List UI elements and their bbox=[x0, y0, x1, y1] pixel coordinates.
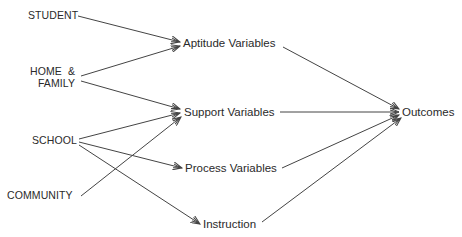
node-support-variables: Support Variables bbox=[184, 106, 275, 118]
node-school: SCHOOL bbox=[32, 134, 77, 146]
node-outcomes: Outcomes bbox=[402, 106, 454, 118]
edge-school-support bbox=[79, 113, 180, 139]
edge-home-aptitude bbox=[81, 46, 180, 76]
node-community: COMMUNITY bbox=[7, 189, 73, 201]
edge-process-outcomes bbox=[282, 115, 399, 168]
node-student: STUDENT bbox=[28, 9, 78, 21]
node-home-line1: HOME & bbox=[30, 65, 75, 77]
edge-home-support bbox=[81, 81, 180, 109]
edge-instruction-outcomes bbox=[262, 118, 401, 222]
edge-student-aptitude bbox=[78, 16, 180, 42]
node-aptitude-variables: Aptitude Variables bbox=[183, 37, 275, 49]
node-home-line2: FAMILY bbox=[30, 77, 75, 89]
node-process-variables: Process Variables bbox=[185, 162, 277, 174]
node-home-family: HOME & FAMILY bbox=[30, 65, 75, 89]
node-instruction: Instruction bbox=[203, 218, 256, 230]
diagram-edges bbox=[0, 0, 462, 237]
edge-aptitude-outcomes bbox=[283, 47, 399, 109]
